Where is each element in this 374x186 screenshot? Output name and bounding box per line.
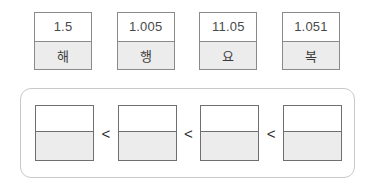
less-than-operator: < [262,126,280,141]
card-number-value: 1.005 [118,13,174,41]
answer-slot[interactable] [35,105,94,161]
answer-slot-syllable-area [36,132,93,160]
number-card[interactable]: 11.05 요 [199,12,257,70]
card-syllable-value: 행 [118,42,174,69]
answer-slot-number-area [36,106,93,131]
card-number-value: 11.05 [200,13,256,41]
answer-slot-syllable-area [201,132,258,160]
answer-slot-syllable-area [119,132,176,160]
answer-slot-row: < < < [35,105,342,161]
card-number-value: 1.5 [35,13,91,41]
card-syllable-value: 해 [35,42,91,69]
answer-slot-number-area [284,106,341,131]
less-than-operator: < [179,126,197,141]
number-card[interactable]: 1.5 해 [34,12,92,70]
number-card[interactable]: 1.051 복 [282,12,340,70]
less-than-operator: < [97,126,115,141]
answer-slot-number-area [201,106,258,131]
exercise-canvas: 1.5 해 1.005 행 11.05 요 1.051 복 [0,0,374,186]
answer-slot-number-area [119,106,176,131]
answer-slot[interactable] [118,105,177,161]
number-card-row: 1.5 해 1.005 행 11.05 요 1.051 복 [34,12,340,70]
answer-slot-syllable-area [284,132,341,160]
number-card[interactable]: 1.005 행 [117,12,175,70]
answer-slot[interactable] [283,105,342,161]
answer-slot[interactable] [200,105,259,161]
answer-panel: < < < [20,88,355,178]
card-number-value: 1.051 [283,13,339,41]
card-syllable-value: 요 [200,42,256,69]
card-syllable-value: 복 [283,42,339,69]
